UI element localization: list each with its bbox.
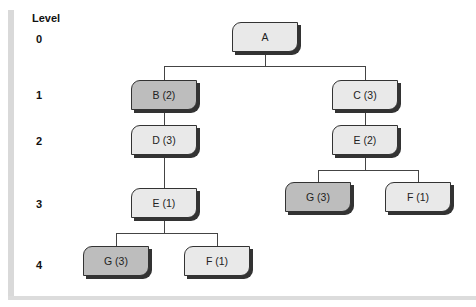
- connector: [365, 112, 366, 125]
- node-g-right: G (3): [285, 182, 351, 212]
- connector: [164, 157, 165, 188]
- connector: [164, 220, 165, 233]
- connector: [418, 170, 419, 182]
- connector: [164, 112, 165, 125]
- connector: [217, 233, 218, 246]
- connector: [365, 157, 366, 170]
- node-b: B (2): [131, 80, 197, 110]
- connector: [318, 170, 419, 171]
- node-e-right: E (2): [332, 125, 398, 155]
- connector: [116, 233, 218, 234]
- level-0-label: 0: [36, 33, 42, 45]
- connector: [116, 233, 117, 246]
- node-a: A: [232, 22, 298, 52]
- level-4-label: 4: [36, 259, 42, 271]
- node-g-left: G (3): [83, 246, 149, 276]
- connector: [365, 66, 366, 80]
- connector: [164, 66, 165, 80]
- level-header: Level: [32, 12, 60, 24]
- connector: [265, 54, 266, 66]
- node-f-left: F (1): [184, 246, 250, 276]
- node-f-right: F (1): [385, 182, 451, 212]
- left-border: [8, 10, 14, 300]
- level-3-label: 3: [36, 198, 42, 210]
- node-c: C (3): [332, 80, 398, 110]
- level-2-label: 2: [36, 135, 42, 147]
- level-1-label: 1: [36, 89, 42, 101]
- connector: [164, 66, 366, 67]
- node-e-left: E (1): [131, 188, 197, 218]
- node-d: D (3): [131, 125, 197, 155]
- bottom-border: [8, 296, 476, 300]
- connector: [318, 170, 319, 182]
